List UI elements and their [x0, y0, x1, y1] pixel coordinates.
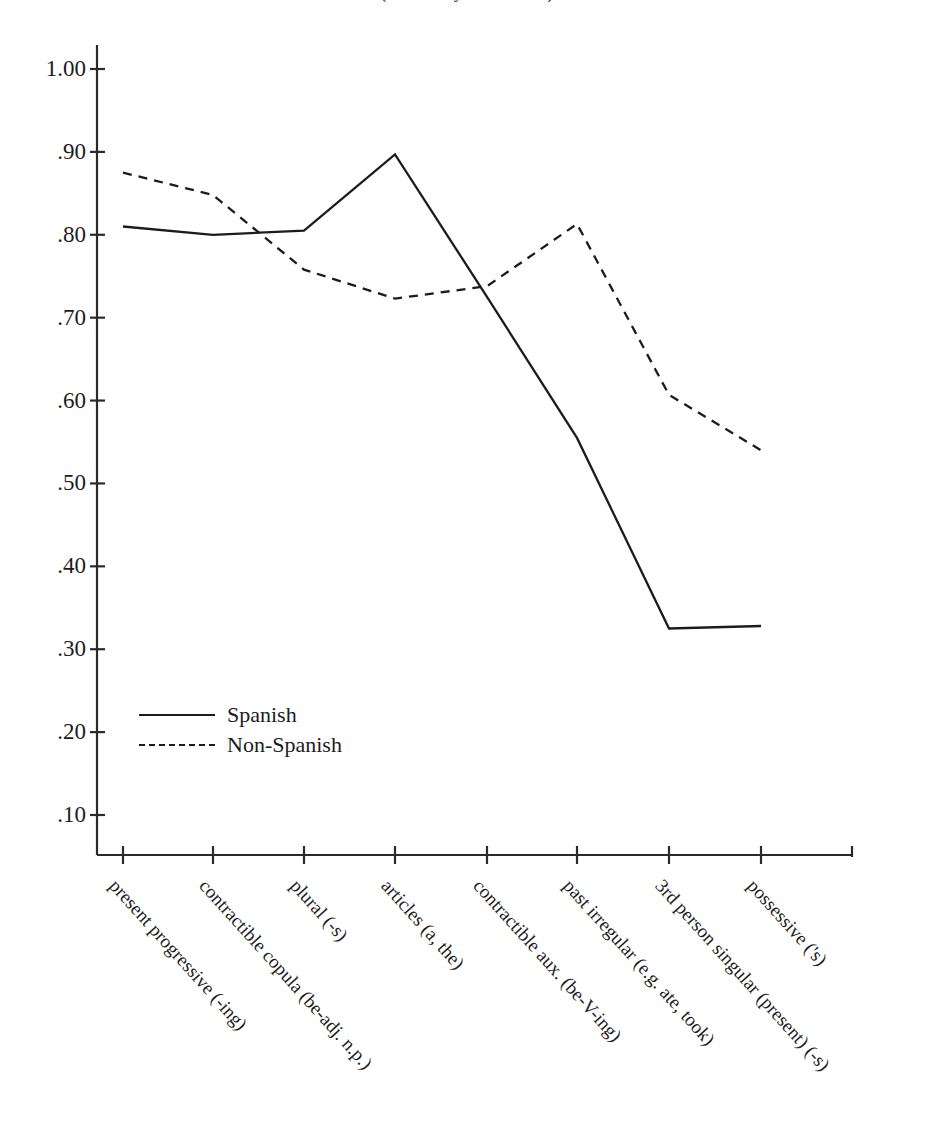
x-tick-label: plural (-s)	[286, 875, 352, 945]
x-axis-tick-labels: present progressive (-ing)contractible c…	[0, 0, 934, 1147]
x-tick-label: articles (a, the)	[377, 875, 468, 973]
x-tick-label: possessive ('s)	[743, 875, 831, 970]
legend-line-dashed-icon	[139, 739, 215, 751]
chart-figure: (from Dulay & Burt 1974) 1.00.90.80.70.6…	[0, 0, 934, 1147]
x-tick-label: contractible copula (be-adj. n.p.)	[195, 875, 377, 1073]
x-tick-label: contractible aux. (be-V-ing)	[469, 875, 626, 1046]
x-tick-label: 3rd person singular (present) (-s)	[651, 875, 834, 1075]
legend-item-spanish: Spanish	[139, 700, 439, 730]
x-tick-label: past irregular (e.g. ate, took)	[559, 875, 719, 1049]
legend-line-solid-icon	[139, 709, 215, 721]
legend-label: Spanish	[227, 703, 297, 727]
chart-legend: Spanish Non-Spanish	[139, 700, 439, 760]
legend-item-non-spanish: Non-Spanish	[139, 730, 439, 760]
legend-label: Non-Spanish	[227, 733, 342, 757]
